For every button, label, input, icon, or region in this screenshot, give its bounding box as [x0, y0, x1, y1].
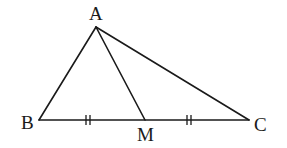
label-a: A — [89, 3, 103, 24]
median-am — [96, 27, 145, 120]
diagram-svg: A B M C — [0, 0, 287, 148]
segment-ab — [39, 27, 96, 120]
label-c: C — [254, 114, 267, 135]
label-b: B — [21, 112, 34, 133]
segment-ac — [96, 27, 249, 120]
triangle-diagram: A B M C — [0, 0, 287, 148]
label-m: M — [137, 124, 154, 145]
